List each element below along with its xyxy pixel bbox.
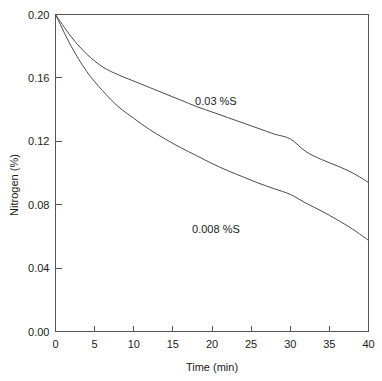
x-tick-label-5: 25 <box>245 338 257 350</box>
y-tick-label-4: 0.16 <box>28 72 49 84</box>
series-curve-1 <box>56 15 369 241</box>
chart-container: 0.000.040.080.120.160.20 051015202530354… <box>0 0 382 381</box>
x-axis-tick-labels: 0510152025303540 <box>52 338 374 350</box>
x-tick-label-2: 10 <box>128 338 140 350</box>
y-tick-label-3: 0.12 <box>28 135 49 147</box>
x-tick-label-7: 35 <box>323 338 335 350</box>
x-tick-label-8: 40 <box>362 338 374 350</box>
y-tick-label-0: 0.00 <box>28 326 49 338</box>
y-tick-label-2: 0.08 <box>28 199 49 211</box>
y-axis-title: Nitrogen (%) <box>8 154 20 216</box>
x-tick-label-6: 30 <box>284 338 296 350</box>
series-annotation-1: 0.008 %S <box>192 223 240 235</box>
y-axis-tick-labels: 0.000.040.080.120.160.20 <box>28 9 49 338</box>
x-tick-label-0: 0 <box>52 338 58 350</box>
axis-ticks <box>56 15 369 332</box>
nitrogen-vs-time-chart: 0.000.040.080.120.160.20 051015202530354… <box>0 0 382 381</box>
x-tick-label-3: 15 <box>167 338 179 350</box>
series-annotation-0: 0.03 %S <box>195 95 237 107</box>
x-tick-label-4: 20 <box>206 338 218 350</box>
plot-frame <box>56 15 369 332</box>
data-series-curves <box>56 15 369 241</box>
y-tick-label-5: 0.20 <box>28 9 49 21</box>
y-tick-label-1: 0.04 <box>28 262 49 274</box>
x-axis-title: Time (min) <box>186 361 238 373</box>
x-tick-label-1: 5 <box>92 338 98 350</box>
